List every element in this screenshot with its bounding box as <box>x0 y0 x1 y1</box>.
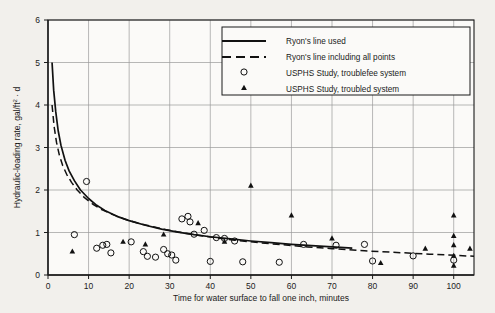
legend-label-0: Ryon's line used <box>286 37 346 46</box>
y-tick-label-4: 4 <box>35 100 40 110</box>
legend: Ryon's line usedRyon's line including al… <box>222 27 470 95</box>
x-axis-title-text: Time for water surface to fall one inch,… <box>173 293 349 303</box>
y-tick-label-2: 2 <box>35 185 40 195</box>
y-axis-title-text: Hydraulic-loading rate, gal/ft2 · d <box>12 86 22 208</box>
x-tick-label-50: 50 <box>246 281 256 291</box>
x-tick-label-80: 80 <box>368 281 378 291</box>
x-tick-label-10: 10 <box>84 281 94 291</box>
y-tick-label-3: 3 <box>35 143 40 153</box>
x-tick-label-60: 60 <box>287 281 297 291</box>
x-tick-label-70: 70 <box>327 281 337 291</box>
y-tick-label-0: 0 <box>35 270 40 280</box>
hydraulic-loading-rate-chart: 0102030405060708090100 0123456 Ryon's li… <box>0 0 495 313</box>
y-tick-label-6: 6 <box>35 15 40 25</box>
x-tick-label-90: 90 <box>408 281 418 291</box>
x-tick-label-20: 20 <box>124 281 134 291</box>
legend-label-3: USPHS Study, troubled system <box>286 85 399 94</box>
legend-label-2: USPHS Study, troublefee system <box>286 69 406 78</box>
y-tick-label-5: 5 <box>35 58 40 68</box>
legend-label-1: Ryon's line including all points <box>286 53 395 62</box>
x-tick-label-30: 30 <box>165 281 175 291</box>
x-tick-label-40: 40 <box>206 281 216 291</box>
x-tick-label-100: 100 <box>447 281 461 291</box>
y-axis-title: Hydraulic-loading rate, gal/ft2 · d <box>12 86 22 208</box>
chart-figure: 0102030405060708090100 0123456 Ryon's li… <box>0 0 495 313</box>
x-tick-label-0: 0 <box>46 281 51 291</box>
y-tick-label-1: 1 <box>35 228 40 238</box>
